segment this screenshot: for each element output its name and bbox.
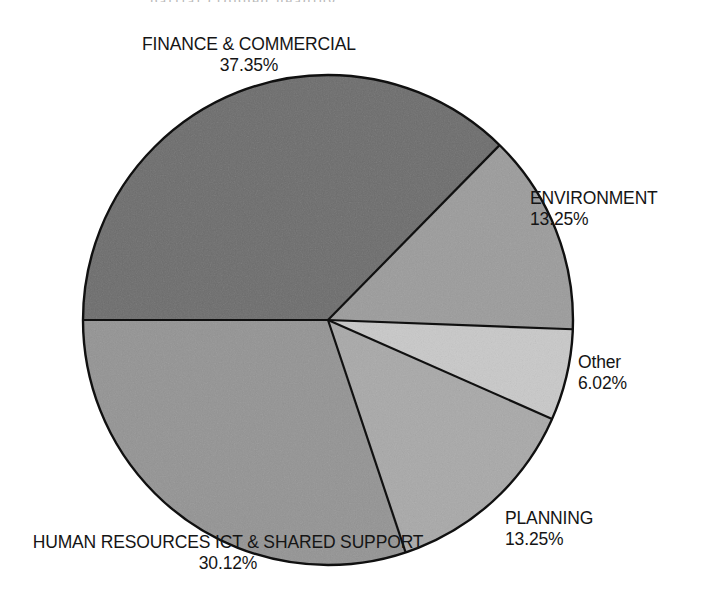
slice-label-percent: 37.35% [104,55,394,76]
slice-label-name: HUMAN RESOURCES ICT & SHARED SUPPORT [33,532,424,552]
slice-label-name: Other [578,352,621,372]
slice-label-name: FINANCE & COMMERCIAL [142,34,356,54]
slice-label-percent: 13.25% [505,529,593,550]
slice-label-other: Other 6.02% [578,352,627,393]
slice-label-finance-commercial: FINANCE & COMMERCIAL 37.35% [104,34,394,75]
slice-label-name: ENVIRONMENT [530,188,658,208]
slice-label-environment: ENVIRONMENT 13.25% [530,188,658,229]
slice-label-percent: 30.12% [18,553,438,574]
slice-label-human-resources-ict-shared-support: HUMAN RESOURCES ICT & SHARED SUPPORT 30.… [18,532,438,573]
slice-label-percent: 6.02% [578,373,627,394]
paper-grain-overlay [0,0,709,608]
slice-label-name: PLANNING [505,508,593,528]
slice-label-percent: 13.25% [530,209,658,230]
pie-chart-graphic [0,0,709,608]
pie-chart-figure: partial cropped heading FINANCE & [0,0,709,608]
slice-label-planning: PLANNING 13.25% [505,508,593,549]
